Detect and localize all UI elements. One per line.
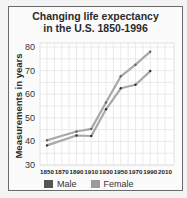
legend-item-female: Female (91, 179, 134, 189)
x-tick-label: 1930 (99, 168, 113, 175)
x-tick-label: 1910 (84, 168, 98, 175)
x-tick-label: 1850 (40, 168, 54, 175)
x-axis-ticks: 185018701890191019301950197019902010 (40, 168, 172, 175)
legend-label-female: Female (104, 179, 134, 189)
x-tick-label: 1870 (55, 168, 69, 175)
y-tick-label: 40 (25, 136, 35, 146)
y-tick-label: 50 (25, 113, 35, 123)
data-point (120, 75, 122, 77)
y-axis-ticks: 304050607080 (25, 42, 35, 170)
data-point (149, 70, 151, 72)
data-point (134, 63, 136, 65)
y-tick-label: 60 (25, 89, 35, 99)
legend-item-male: Male (44, 179, 77, 189)
data-point (120, 87, 122, 89)
x-tick-label: 1970 (129, 168, 143, 175)
legend-label-male: Male (57, 179, 77, 189)
data-point (149, 51, 151, 53)
y-tick-label: 80 (25, 42, 35, 52)
data-point (90, 128, 92, 130)
data-point (75, 134, 77, 136)
data-point (134, 84, 136, 86)
y-tick-label: 70 (25, 66, 35, 76)
legend: Male Female (44, 179, 134, 189)
data-point (75, 130, 77, 132)
y-tick-label: 30 (25, 160, 35, 170)
x-tick-label: 2010 (158, 168, 172, 175)
x-tick-label: 1950 (114, 168, 128, 175)
data-point (46, 144, 48, 146)
x-tick-label: 1990 (143, 168, 157, 175)
male-swatch-icon (44, 180, 53, 188)
data-point (90, 135, 92, 137)
x-tick-label: 1890 (70, 168, 84, 175)
data-point (46, 139, 48, 141)
female-swatch-icon (91, 180, 100, 188)
data-point (105, 108, 107, 110)
data-point (105, 101, 107, 103)
plot-area: 304050607080 185018701890191019301950197… (0, 0, 187, 198)
grid-lines (40, 43, 174, 165)
